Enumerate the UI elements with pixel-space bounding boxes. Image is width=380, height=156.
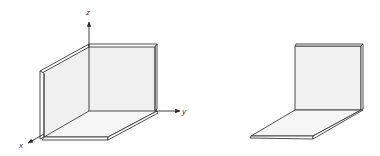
left-bracket-figure	[28, 22, 180, 143]
y-axis-label: y	[181, 107, 187, 116]
right-back-wall	[295, 44, 363, 110]
right-floor-plate	[250, 110, 363, 139]
diagram-canvas: z y x	[0, 0, 380, 156]
z-axis-label: z	[85, 8, 90, 17]
right-bracket-figure	[250, 44, 363, 139]
x-axis-label: x	[18, 141, 24, 150]
back-wall	[89, 44, 157, 111]
